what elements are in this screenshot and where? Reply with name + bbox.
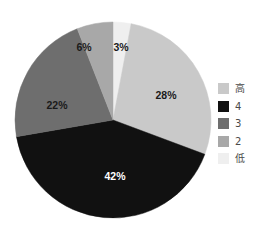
legend-item-1[interactable]: 4 [218,98,268,116]
legend-item-label: 高 [235,83,245,94]
legend-item-label: 2 [235,136,241,147]
pie-slice-group [15,22,211,218]
legend-item-4[interactable]: 低 [218,150,268,168]
legend-item-label: 低 [235,153,245,164]
chart-legend: 高432低 [218,80,268,168]
legend-swatch-icon [218,136,229,147]
legend-swatch-icon [218,153,229,164]
legend-item-label: 4 [235,101,241,112]
legend-swatch-icon [218,101,229,112]
legend-item-3[interactable]: 2 [218,133,268,151]
legend-item-2[interactable]: 3 [218,115,268,133]
legend-item-0[interactable]: 高 [218,80,268,98]
legend-item-label: 3 [235,118,241,129]
legend-swatch-icon [218,118,229,129]
pie-chart-figure: 3%28%42%22%6% 高432低 [0,0,271,229]
legend-swatch-icon [218,83,229,94]
